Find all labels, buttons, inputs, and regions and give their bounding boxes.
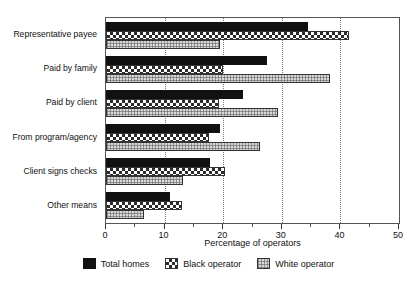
category-label: Other means	[47, 200, 97, 210]
bar	[106, 167, 225, 176]
bar-group	[106, 189, 399, 223]
legend-item: Total homes	[83, 258, 150, 269]
x-tick	[134, 224, 135, 227]
bar-chart: Representative payeePaid by familyPaid b…	[0, 0, 417, 286]
bar-group	[106, 52, 399, 86]
bar	[106, 99, 219, 108]
bar	[106, 158, 210, 167]
bar	[106, 22, 308, 31]
category-label: Paid by client	[46, 97, 97, 107]
legend-item: White operator	[257, 258, 334, 269]
bar	[106, 201, 182, 210]
x-tick	[398, 224, 399, 229]
category-label: Representative payee	[13, 29, 97, 39]
bar	[106, 142, 260, 151]
x-tick	[339, 224, 340, 229]
bar	[106, 40, 220, 49]
legend-swatch-icon	[257, 258, 270, 269]
bar-group	[106, 121, 399, 155]
legend-label: Total homes	[101, 259, 150, 269]
bar-group	[106, 155, 399, 189]
x-tick	[252, 224, 253, 227]
x-tick	[310, 224, 311, 227]
category-axis-labels: Representative payeePaid by familyPaid b…	[0, 17, 101, 224]
bar	[106, 74, 330, 83]
bar	[106, 124, 220, 133]
bar	[106, 90, 243, 99]
category-label: Client signs checks	[23, 166, 97, 176]
bar	[106, 108, 278, 117]
x-tick	[105, 224, 106, 229]
category-label: From program/agency	[12, 132, 97, 142]
bar	[106, 192, 170, 201]
legend-swatch-icon	[83, 258, 96, 269]
bar	[106, 56, 267, 65]
bar	[106, 31, 349, 40]
legend-item: Black operator	[165, 258, 241, 269]
bar	[106, 210, 144, 219]
legend-label: Black operator	[183, 259, 241, 269]
x-axis-title: Percentage of operators	[105, 238, 400, 249]
x-tick	[164, 224, 165, 229]
x-tick	[222, 224, 223, 229]
x-tick	[193, 224, 194, 227]
x-tick	[369, 224, 370, 227]
legend-label: White operator	[275, 259, 334, 269]
bar-group	[106, 18, 399, 52]
bar	[106, 65, 223, 74]
bar	[106, 133, 209, 142]
legend-swatch-icon	[165, 258, 178, 269]
bar-group	[106, 86, 399, 120]
x-tick	[281, 224, 282, 229]
bar	[106, 176, 183, 185]
category-label: Paid by family	[44, 63, 98, 73]
plot-area	[105, 17, 400, 224]
chart-legend: Total homesBlack operatorWhite operator	[0, 258, 417, 269]
